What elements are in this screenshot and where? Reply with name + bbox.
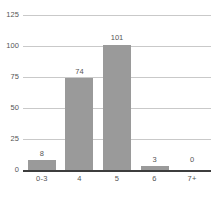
- bar-value-4: 74: [75, 68, 83, 76]
- x-tick-label-5: 5: [115, 175, 119, 183]
- bar-group-5[interactable]: 101 5: [98, 0, 136, 206]
- bar-chart: 125 100 75 50 25 0 8 0-3 74 4 101 5: [0, 0, 223, 206]
- bars-layer: 8 0-3 74 4 101 5 3 6 0 7+: [23, 0, 211, 206]
- y-tick-label-50: 50: [10, 104, 19, 112]
- bar-value-5: 101: [111, 34, 124, 42]
- x-tick-label-6: 6: [152, 175, 156, 183]
- bar-value-6: 3: [153, 156, 157, 164]
- bar-0-3[interactable]: [28, 160, 56, 170]
- x-tick-label-4: 4: [77, 175, 81, 183]
- x-tick-label-7plus: 7+: [188, 175, 197, 183]
- bar-group-6[interactable]: 3 6: [136, 0, 174, 206]
- y-tick-label-125: 125: [6, 11, 19, 19]
- x-tick-label-0-3: 0-3: [36, 175, 48, 183]
- bar-6[interactable]: [141, 166, 169, 170]
- bar-group-7plus[interactable]: 0 7+: [173, 0, 211, 206]
- y-tick-label-25: 25: [10, 135, 19, 143]
- y-axis-tick-labels: 125 100 75 50 25 0: [0, 0, 19, 206]
- y-tick-label-75: 75: [10, 73, 19, 81]
- bar-value-7plus: 0: [190, 156, 194, 164]
- bar-value-0-3: 8: [40, 150, 44, 158]
- bar-5[interactable]: [103, 45, 131, 170]
- bar-group-4[interactable]: 74 4: [61, 0, 99, 206]
- y-tick-label-0: 0: [15, 166, 19, 174]
- bar-group-0-3[interactable]: 8 0-3: [23, 0, 61, 206]
- y-tick-label-100: 100: [6, 42, 19, 50]
- bar-4[interactable]: [65, 78, 93, 170]
